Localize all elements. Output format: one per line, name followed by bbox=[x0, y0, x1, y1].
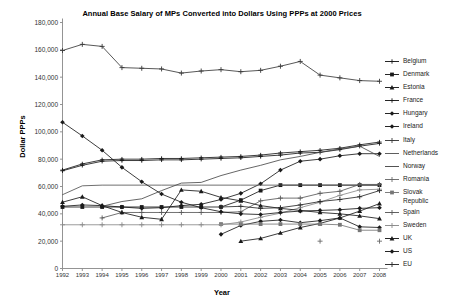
legend-item[interactable]: Hungary bbox=[384, 108, 461, 121]
legend-marker-icon bbox=[384, 122, 401, 131]
legend-marker-icon bbox=[384, 57, 401, 66]
legend-label: Spain bbox=[401, 207, 420, 216]
legend-marker-icon bbox=[384, 208, 401, 217]
legend-label: Belgium bbox=[401, 56, 426, 65]
legend-item[interactable]: Netherlands bbox=[384, 148, 461, 161]
series-italy bbox=[60, 42, 382, 84]
legend-label: Norway bbox=[401, 161, 425, 170]
legend-item[interactable]: Estonia bbox=[384, 82, 461, 95]
legend-label: Netherlands bbox=[401, 148, 438, 157]
legend-marker-icon bbox=[384, 162, 401, 171]
legend-item[interactable]: Denmark bbox=[384, 69, 461, 82]
legend-label: Romania bbox=[401, 174, 429, 183]
legend-marker-icon bbox=[384, 234, 401, 243]
legend-label: Ireland bbox=[401, 121, 423, 130]
legend-label: US bbox=[401, 246, 412, 255]
legend-marker-icon bbox=[384, 83, 401, 92]
legend-label: Slovak Republic bbox=[401, 187, 428, 205]
legend-item[interactable]: Slovak Republic bbox=[384, 187, 461, 207]
legend-item[interactable]: Spain bbox=[384, 207, 461, 220]
legend-marker-icon bbox=[384, 188, 401, 197]
legend-marker-icon bbox=[384, 109, 401, 118]
chart-figure: Annual Base Salary of MPs Converted into… bbox=[0, 0, 461, 308]
legend-item[interactable]: US bbox=[384, 246, 461, 259]
legend-marker-icon bbox=[384, 70, 401, 79]
legend-item[interactable]: UK bbox=[384, 233, 461, 246]
legend-marker-icon bbox=[384, 247, 401, 256]
legend-label: Denmark bbox=[401, 69, 429, 78]
legend-item[interactable]: Italy bbox=[384, 135, 461, 148]
legend-label: Italy bbox=[401, 135, 415, 144]
legend-marker-icon bbox=[384, 175, 401, 184]
legend-marker-icon bbox=[384, 260, 401, 269]
series-netherlands bbox=[63, 185, 380, 195]
legend-item[interactable]: Norway bbox=[384, 161, 461, 174]
legend-label: Sweden bbox=[401, 220, 427, 229]
legend-marker-icon bbox=[384, 221, 401, 230]
legend-item[interactable]: Romania bbox=[384, 174, 461, 187]
legend-item[interactable]: Sweden bbox=[384, 220, 461, 233]
legend-label: Estonia bbox=[401, 82, 425, 91]
legend-label: UK bbox=[401, 233, 412, 242]
legend-item[interactable]: Belgium bbox=[384, 56, 461, 69]
chart-legend: BelgiumDenmarkEstoniaFranceHungaryIrelan… bbox=[384, 56, 461, 272]
legend-label: France bbox=[401, 95, 423, 104]
legend-label: EU bbox=[401, 259, 412, 268]
series-romania bbox=[318, 239, 382, 244]
series-us bbox=[60, 120, 382, 217]
legend-item[interactable]: Ireland bbox=[384, 121, 461, 134]
legend-label: Hungary bbox=[401, 108, 428, 117]
legend-item[interactable]: EU bbox=[384, 259, 461, 272]
legend-marker-icon bbox=[384, 96, 401, 105]
legend-marker-icon bbox=[384, 136, 401, 145]
legend-marker-icon bbox=[384, 149, 401, 158]
legend-item[interactable]: France bbox=[384, 95, 461, 108]
